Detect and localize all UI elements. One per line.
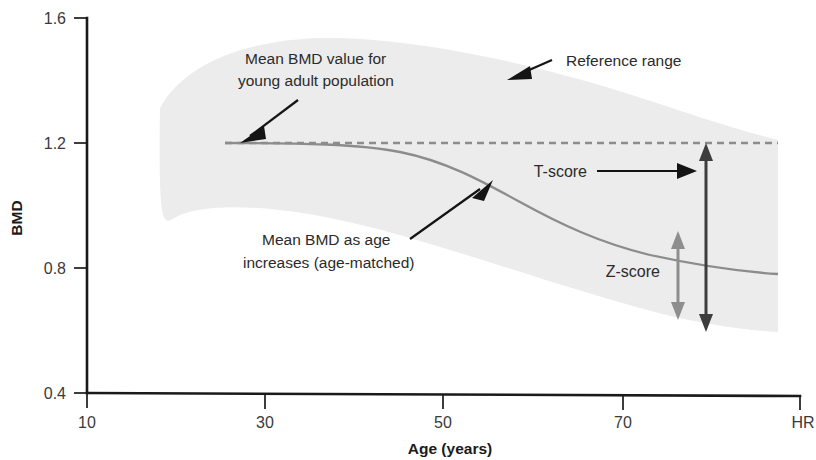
x-tick-label-70: 70 (614, 414, 632, 431)
t-score-label: T-score (534, 163, 587, 180)
y-tick-label-1_2: 1.2 (44, 135, 66, 152)
annotation-young-adult-line1: Mean BMD value for (245, 50, 386, 67)
x-tick-label-hr: HR (791, 414, 814, 431)
bmd-age-chart: 1.6 1.2 0.8 0.4 BMD 10 30 50 70 HR Age (… (0, 0, 816, 460)
chart-canvas: 1.6 1.2 0.8 0.4 BMD 10 30 50 70 HR Age (… (0, 0, 816, 460)
z-score-label: Z-score (606, 263, 660, 280)
y-tick-label-0_8: 0.8 (44, 260, 66, 277)
x-axis-title: Age (years) (408, 440, 492, 457)
annotation-age-matched-line1: Mean BMD as age (262, 231, 390, 248)
y-tick-label-1_6: 1.6 (44, 10, 66, 27)
x-tick-label-30: 30 (256, 414, 274, 431)
x-tick-label-50: 50 (434, 414, 452, 431)
annotation-age-matched-line2: increases (age-matched) (243, 254, 414, 271)
annotation-reference-range-label: Reference range (566, 52, 681, 69)
y-axis-title: BMD (8, 200, 25, 235)
x-tick-label-10: 10 (78, 414, 96, 431)
annotation-young-adult-line2: young adult population (238, 72, 394, 89)
y-tick-label-0_4: 0.4 (44, 385, 66, 402)
